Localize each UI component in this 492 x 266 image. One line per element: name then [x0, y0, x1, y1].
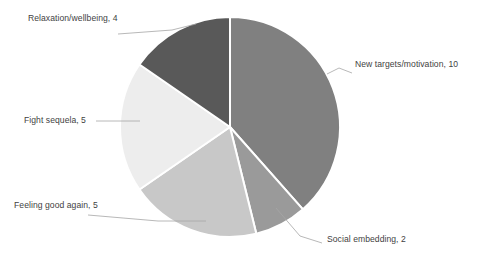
pie-chart-figure: Relaxation/wellbeing, 4 New targets/moti… [0, 0, 492, 266]
leader-line-new-targets-motivation [327, 68, 352, 74]
slice-label-feeling-good-again: Feeling good again, 5 [14, 200, 98, 211]
slice-label-fight-sequela: Fight sequela, 5 [24, 115, 86, 126]
slice-label-social-embedding: Social embedding, 2 [327, 234, 406, 245]
slice-label-relaxation-wellbeing: Relaxation/wellbeing, 4 [28, 13, 118, 24]
slice-label-new-targets-motivation: New targets/motivation, 10 [355, 59, 458, 70]
pie-chart-graphic [0, 0, 492, 266]
pie-slices [120, 17, 340, 237]
